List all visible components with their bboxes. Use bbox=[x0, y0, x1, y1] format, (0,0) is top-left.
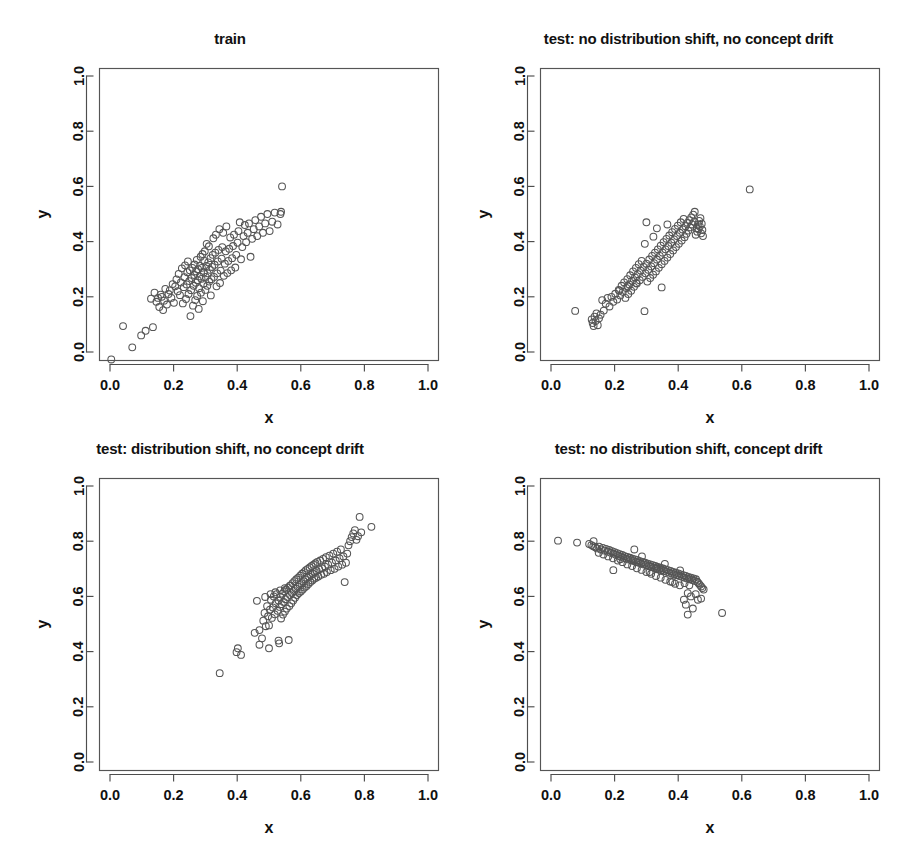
data-point bbox=[555, 537, 562, 544]
y-tick-label: 0.0 bbox=[71, 342, 87, 362]
x-tick-label: 0.8 bbox=[795, 377, 815, 393]
y-tick-label: 1.0 bbox=[71, 476, 87, 496]
y-tick-label: 0.4 bbox=[512, 642, 528, 662]
y-tick-label: 0.8 bbox=[71, 121, 87, 141]
y-tick-label: 0.6 bbox=[512, 586, 528, 606]
data-point bbox=[689, 605, 696, 612]
figure-panel-grid: train0.00.20.40.60.81.00.00.20.40.60.81.… bbox=[0, 0, 917, 861]
data-point bbox=[246, 220, 253, 227]
scatter-panel-bottom-left: test: distribution shift, no concept dri… bbox=[0, 430, 460, 861]
y-tick-label: 0.2 bbox=[512, 697, 528, 717]
x-tick-label: 0.6 bbox=[732, 377, 752, 393]
x-tick-label: 0.2 bbox=[164, 377, 184, 393]
data-point bbox=[274, 221, 281, 228]
y-tick-label: 0.2 bbox=[512, 287, 528, 307]
data-point bbox=[258, 213, 265, 220]
x-axis-title: x bbox=[265, 409, 274, 426]
data-point bbox=[254, 597, 261, 604]
data-points bbox=[108, 183, 286, 363]
x-tick-label: 0.6 bbox=[732, 787, 752, 803]
data-point bbox=[650, 233, 657, 240]
data-point bbox=[658, 284, 665, 291]
data-points bbox=[572, 186, 753, 329]
scatter-panel-top-right: test: no distribution shift, no concept … bbox=[460, 0, 917, 430]
data-point bbox=[653, 225, 660, 232]
x-tick-label: 0.4 bbox=[227, 787, 247, 803]
plot-box bbox=[541, 479, 880, 771]
data-point bbox=[641, 240, 648, 247]
data-point bbox=[120, 323, 127, 330]
data-point bbox=[631, 546, 638, 553]
y-axis-title: y bbox=[34, 619, 51, 628]
x-tick-label: 0.8 bbox=[795, 787, 815, 803]
y-tick-label: 0.8 bbox=[71, 531, 87, 551]
data-points bbox=[555, 537, 726, 618]
data-point bbox=[572, 307, 579, 314]
data-point bbox=[279, 183, 286, 190]
y-tick-label: 0.4 bbox=[512, 232, 528, 252]
x-tick-label: 0.0 bbox=[541, 377, 561, 393]
data-point bbox=[223, 223, 230, 230]
data-point bbox=[641, 308, 648, 315]
plot-area: 0.00.20.40.60.81.00.00.20.40.60.81.0xy bbox=[460, 0, 917, 430]
y-tick-label: 0.2 bbox=[71, 287, 87, 307]
y-tick-label: 0.6 bbox=[512, 176, 528, 196]
plot-area: 0.00.20.40.60.81.00.00.20.40.60.81.0xy bbox=[460, 430, 917, 861]
y-tick-label: 0.0 bbox=[512, 342, 528, 362]
data-point bbox=[719, 610, 726, 617]
x-axis-title: x bbox=[706, 409, 715, 426]
x-tick-label: 1.0 bbox=[418, 787, 438, 803]
plot-box bbox=[100, 69, 439, 361]
x-axis-title: x bbox=[265, 819, 274, 836]
y-tick-label: 0.4 bbox=[71, 642, 87, 662]
y-tick-label: 1.0 bbox=[512, 66, 528, 86]
x-tick-label: 0.6 bbox=[291, 787, 311, 803]
data-point bbox=[264, 211, 271, 218]
plot-area: 0.00.20.40.60.81.00.00.20.40.60.81.0xy bbox=[0, 430, 460, 861]
y-tick-label: 0.2 bbox=[71, 697, 87, 717]
data-point bbox=[746, 186, 753, 193]
y-axis-title: y bbox=[475, 209, 492, 218]
x-tick-label: 1.0 bbox=[418, 377, 438, 393]
data-point bbox=[199, 298, 206, 305]
data-point bbox=[259, 635, 266, 642]
data-point bbox=[234, 645, 241, 652]
data-point bbox=[266, 228, 273, 235]
x-tick-label: 0.6 bbox=[291, 377, 311, 393]
data-point bbox=[238, 256, 245, 263]
data-point bbox=[207, 292, 214, 299]
y-tick-label: 0.8 bbox=[512, 121, 528, 141]
data-point bbox=[684, 611, 691, 618]
data-point bbox=[247, 253, 254, 260]
data-point bbox=[129, 344, 136, 351]
data-point bbox=[356, 514, 363, 521]
y-tick-label: 1.0 bbox=[71, 66, 87, 86]
data-point bbox=[266, 645, 273, 652]
x-tick-label: 0.0 bbox=[541, 787, 561, 803]
y-tick-label: 0.6 bbox=[71, 176, 87, 196]
data-point bbox=[347, 538, 354, 545]
data-point bbox=[187, 313, 194, 320]
data-point bbox=[345, 542, 352, 549]
x-tick-label: 0.0 bbox=[100, 377, 120, 393]
y-tick-label: 0.6 bbox=[71, 586, 87, 606]
data-point bbox=[574, 539, 581, 546]
data-point bbox=[142, 327, 149, 334]
x-tick-label: 0.4 bbox=[668, 377, 688, 393]
data-point bbox=[256, 641, 263, 648]
data-point bbox=[262, 220, 269, 227]
scatter-panel-top-left: train0.00.20.40.60.81.00.00.20.40.60.81.… bbox=[0, 0, 460, 430]
x-tick-label: 1.0 bbox=[859, 787, 879, 803]
y-tick-label: 0.0 bbox=[71, 752, 87, 772]
data-point bbox=[664, 221, 671, 228]
data-point bbox=[610, 567, 617, 574]
data-point bbox=[643, 219, 650, 226]
data-point bbox=[341, 579, 348, 586]
data-point bbox=[260, 229, 267, 236]
x-tick-label: 0.8 bbox=[354, 787, 374, 803]
x-tick-label: 0.2 bbox=[164, 787, 184, 803]
data-point bbox=[216, 670, 223, 677]
x-axis-title: x bbox=[706, 819, 715, 836]
x-tick-label: 1.0 bbox=[859, 377, 879, 393]
data-point bbox=[285, 637, 292, 644]
